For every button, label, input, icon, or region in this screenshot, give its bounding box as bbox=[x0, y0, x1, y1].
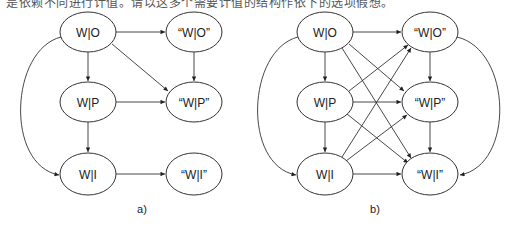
diagram-a-caption: a) bbox=[137, 203, 147, 215]
node-label: “W|O” bbox=[414, 26, 446, 40]
diagram-canvas: W|O “W|O” W|P “W|P” W|I “W|I” a) bbox=[0, 0, 509, 227]
diagram-b-edges bbox=[258, 32, 500, 175]
node-a-qWI: “W|I” bbox=[166, 153, 222, 195]
diagram-b-caption: b) bbox=[370, 203, 380, 215]
edge-a-WO-qWP bbox=[112, 44, 168, 91]
node-a-WO: W|O bbox=[60, 12, 116, 52]
node-label: “W|P” bbox=[415, 96, 445, 110]
node-b-WP: W|P bbox=[297, 82, 353, 122]
node-b-qWP: “W|P” bbox=[402, 82, 458, 122]
edge-b-WO-WI-curve bbox=[258, 37, 298, 175]
diagram-a: W|O “W|O” W|P “W|P” W|I “W|I” a) bbox=[21, 12, 222, 215]
node-a-WP: W|P bbox=[60, 82, 116, 122]
node-label: W|O bbox=[76, 26, 100, 40]
node-b-WI: W|I bbox=[297, 153, 353, 195]
node-b-qWO: “W|O” bbox=[402, 12, 458, 52]
node-label: “W|O” bbox=[178, 26, 210, 40]
node-label: “W|I” bbox=[417, 168, 443, 182]
node-a-qWP: “W|P” bbox=[166, 82, 222, 122]
node-b-WO: W|O bbox=[297, 12, 353, 52]
edge-a-WO-WI-curve bbox=[21, 37, 61, 175]
node-label: W|P bbox=[314, 96, 336, 110]
diagram-b: W|O “W|O” W|P “W|P” W|I “W|I” b) bbox=[258, 12, 500, 215]
node-label: W|P bbox=[77, 96, 99, 110]
node-label: W|I bbox=[79, 168, 97, 182]
node-a-WI: W|I bbox=[60, 153, 116, 195]
edge-b-qWO-qWI-curve bbox=[457, 37, 500, 175]
edge-b-WO-qWP bbox=[349, 44, 404, 91]
edge-b-WI-qWP bbox=[346, 115, 407, 161]
node-a-qWO: “W|O” bbox=[166, 12, 222, 52]
node-b-qWI: “W|I” bbox=[402, 153, 458, 195]
node-label: W|I bbox=[316, 168, 334, 182]
node-label: “W|I” bbox=[181, 168, 207, 182]
node-label: W|O bbox=[313, 26, 337, 40]
node-label: “W|P” bbox=[179, 96, 209, 110]
